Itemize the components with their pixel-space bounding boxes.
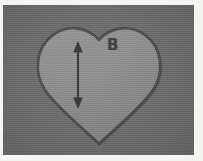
heart-shape	[38, 28, 160, 144]
photo-plate: B	[3, 5, 194, 155]
figure-root: B	[0, 0, 203, 161]
region-label-b: B	[107, 38, 118, 53]
heart-illustration	[3, 5, 194, 155]
